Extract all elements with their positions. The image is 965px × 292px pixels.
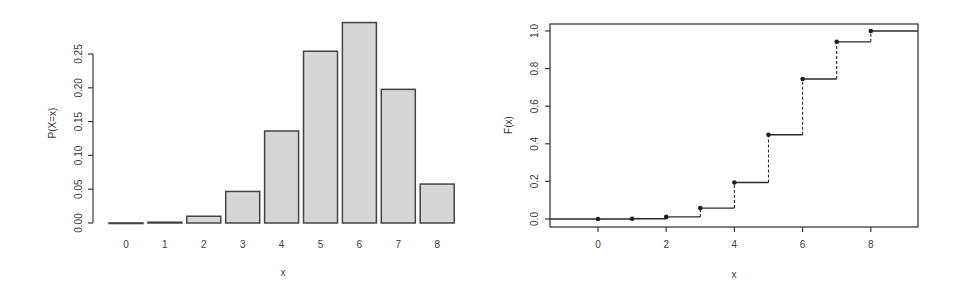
cdf-point <box>698 206 703 211</box>
cdf-step-chart: 0.00.20.40.60.81.002468xF(x) <box>0 0 965 292</box>
x-tick-label: 2 <box>663 239 669 250</box>
cdf-point <box>869 29 874 34</box>
y-tick-label: 0.6 <box>529 99 540 113</box>
x-tick-label: 8 <box>868 239 874 250</box>
y-axis-label: F(x) <box>503 116 514 134</box>
figure: 0.000.050.100.150.200.25012345678xP(X=x)… <box>0 0 965 292</box>
cdf-point <box>834 40 839 45</box>
y-tick-label: 0.8 <box>529 61 540 75</box>
x-axis-label: x <box>732 269 737 280</box>
cdf-point <box>630 216 635 221</box>
y-tick-label: 1.0 <box>529 24 540 38</box>
x-tick-label: 4 <box>732 239 738 250</box>
cdf-point <box>664 215 669 220</box>
cdf-point <box>732 180 737 185</box>
cdf-point <box>596 217 601 222</box>
y-tick-label: 0.0 <box>529 212 540 226</box>
x-tick-label: 6 <box>800 239 806 250</box>
x-tick-label: 0 <box>595 239 601 250</box>
cdf-point <box>800 77 805 82</box>
y-tick-label: 0.4 <box>529 136 540 150</box>
y-tick-label: 0.2 <box>529 174 540 188</box>
cdf-point <box>766 132 771 137</box>
